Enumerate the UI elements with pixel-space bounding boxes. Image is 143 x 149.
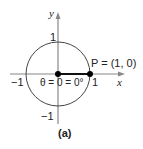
tick-x-neg: −1 xyxy=(11,77,24,88)
tick-y-neg: −1 xyxy=(41,111,54,122)
y-axis-label: y xyxy=(49,8,54,19)
point-p-label: P = (1, 0) xyxy=(91,58,136,69)
tick-y-pos: 1 xyxy=(50,32,56,43)
tick-x-pos: 1 xyxy=(92,77,98,88)
y-axis-arrow-icon xyxy=(56,12,61,19)
angle-label: θ = 0 = 0° xyxy=(40,78,83,88)
unit-circle-diagram xyxy=(0,0,143,149)
caption: (a) xyxy=(58,128,71,139)
x-axis-label: x xyxy=(117,77,122,88)
